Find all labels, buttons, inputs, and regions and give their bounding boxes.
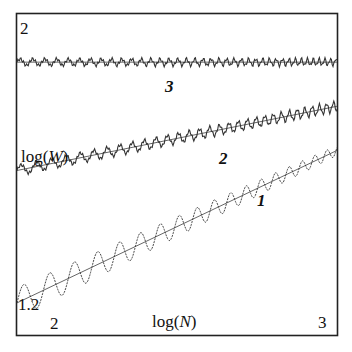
y-axis-label: log(W) [21, 148, 68, 165]
y-axis-label-var: W [48, 147, 62, 166]
plot-area [0, 0, 352, 352]
y-tick-top: 2 [20, 20, 29, 37]
curve-label-1: 1 [257, 192, 266, 209]
y-axis-label-prefix: log( [21, 147, 48, 166]
x-axis-label-prefix: log( [152, 312, 179, 331]
data-curves [17, 57, 337, 308]
curve-label-2: 2 [219, 150, 228, 167]
data-curve-1 [17, 148, 337, 309]
x-tick-left: 2 [50, 315, 59, 332]
y-axis-label-suffix: ) [63, 147, 69, 166]
y-tick-bottom: 1.2 [18, 296, 39, 313]
x-axis-label: log(N) [152, 313, 196, 330]
x-tick-right: 3 [318, 314, 327, 331]
fit-lines [17, 62, 337, 303]
curve-label-3: 3 [165, 78, 174, 95]
fit-line-1 [17, 150, 337, 302]
x-axis-label-var: N [179, 312, 190, 331]
x-axis-label-suffix: ) [191, 312, 197, 331]
